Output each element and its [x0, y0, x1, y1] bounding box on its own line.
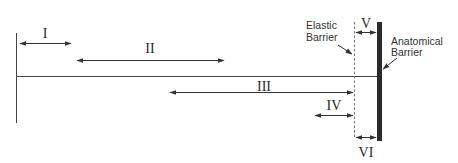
segment-VI-label: VI [359, 145, 374, 160]
barrier-diagram: I II III IV V VI Elastic Barrier Anatomi… [0, 0, 458, 163]
segment-II-label: II [145, 41, 155, 56]
anatomical-barrier-label-line2: Barrier [391, 46, 423, 58]
segment-I-label: I [43, 26, 48, 41]
segment-V-label: V [361, 16, 371, 31]
anatomical-barrier-bar [377, 22, 382, 141]
segment-IV-label: IV [327, 98, 342, 113]
elastic-barrier-label-line2: Barrier [306, 31, 338, 43]
elastic-barrier-label-line1: Elastic [306, 19, 337, 31]
segment-III-label: III [257, 79, 271, 94]
anatomical-barrier-pointer [383, 58, 397, 69]
elastic-barrier-pointer [338, 45, 352, 54]
